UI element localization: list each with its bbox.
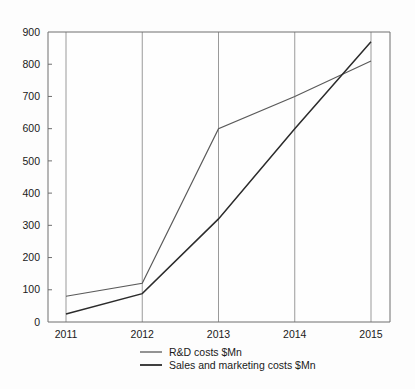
x-tick-label-2012: 2012 (131, 328, 155, 340)
x-tick-label-2013: 2013 (207, 328, 231, 340)
y-tick-label-500: 500 (22, 155, 40, 167)
y-tick-label-900: 900 (22, 26, 40, 38)
x-tick-label-2015: 2015 (359, 328, 383, 340)
y-tick-label-600: 600 (22, 122, 40, 134)
y-tick-label-200: 200 (22, 251, 40, 263)
y-tick-label-100: 100 (22, 283, 40, 295)
line-chart: 0100200300400500600700800900 20112012201… (0, 0, 415, 389)
legend-label-1: Sales and marketing costs $Mn (169, 359, 316, 371)
y-tick-label-700: 700 (22, 90, 40, 102)
x-tick-label-2014: 2014 (283, 328, 307, 340)
x-tick-label-2011: 2011 (55, 328, 78, 340)
legend-label-0: R&D costs $Mn (169, 346, 242, 358)
y-tick-label-800: 800 (22, 58, 40, 70)
y-tick-label-400: 400 (22, 187, 40, 199)
y-tick-label-0: 0 (34, 316, 40, 328)
y-tick-label-300: 300 (22, 219, 40, 231)
chart-canvas: 0100200300400500600700800900 20112012201… (0, 0, 415, 389)
